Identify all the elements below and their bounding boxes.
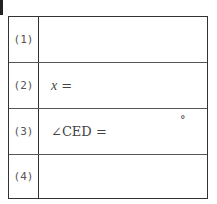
- question-number: (1): [9, 17, 39, 62]
- answer-row-1: (1): [9, 17, 207, 62]
- question-number: (3): [9, 109, 39, 154]
- answer-field-2[interactable]: x =: [39, 63, 207, 108]
- answer-table: (1) (2) x = (3) ∠CED = ° (4): [8, 16, 208, 199]
- equals-sign: =: [57, 78, 72, 93]
- angle-ced-label: ∠CED =: [51, 124, 107, 139]
- answer-field-1[interactable]: [39, 17, 207, 62]
- corner-marker: [0, 0, 3, 15]
- answer-row-2: (2) x =: [9, 63, 207, 108]
- question-number: (4): [9, 155, 39, 198]
- answer-row-4: (4): [9, 155, 207, 198]
- answer-row-3: (3) ∠CED = °: [9, 109, 207, 154]
- degree-unit: °: [180, 114, 186, 127]
- answer-field-4[interactable]: [39, 155, 207, 198]
- question-number: (2): [9, 63, 39, 108]
